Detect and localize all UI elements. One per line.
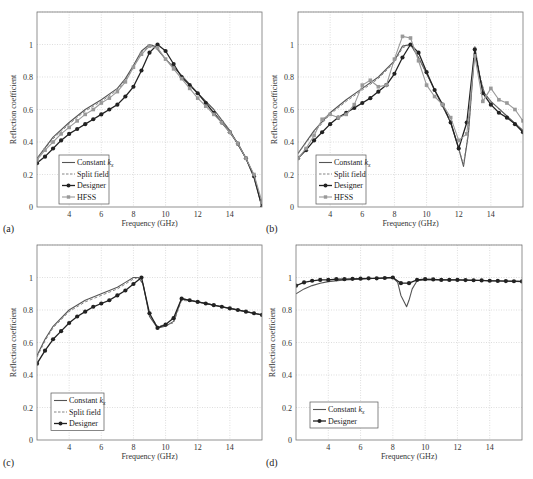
data-point-marker	[505, 116, 509, 120]
data-point-marker	[350, 277, 354, 281]
data-point-marker	[212, 113, 216, 117]
data-point-marker	[147, 311, 151, 315]
x-tick-label: 4	[326, 443, 330, 452]
data-point-marker	[204, 104, 208, 108]
x-tick-label: 12	[194, 210, 202, 219]
legend-entry-label: HFSS	[77, 193, 96, 202]
legend-entry-label: Constant kx	[334, 158, 371, 168]
data-point-marker	[123, 288, 127, 292]
data-point-marker	[352, 103, 356, 107]
data-point-marker	[431, 277, 435, 281]
series-line	[37, 278, 262, 364]
data-point-marker	[51, 337, 55, 341]
data-point-marker	[115, 293, 119, 297]
data-point-marker	[196, 91, 200, 95]
data-point-marker	[43, 155, 47, 159]
data-point-marker	[417, 59, 421, 63]
data-point-marker	[375, 276, 379, 280]
data-point-marker	[43, 349, 47, 353]
data-point-marker	[320, 130, 324, 134]
figure-canvas: 46810121400.20.40.60.81Frequency (GHz)Re…	[0, 0, 533, 479]
data-point-marker	[424, 70, 428, 74]
data-point-marker	[505, 101, 509, 105]
data-point-marker	[449, 116, 453, 120]
y-tick-label: 0.8	[284, 73, 294, 82]
data-point-marker	[180, 297, 184, 301]
data-point-marker	[139, 68, 143, 72]
x-tick-label: 14	[226, 443, 234, 452]
data-point-marker	[336, 116, 340, 120]
series-group	[294, 275, 524, 306]
data-point-marker	[67, 126, 71, 130]
data-point-marker	[228, 130, 232, 134]
data-point-marker	[407, 281, 411, 285]
y-tick-label: 0.8	[23, 73, 33, 82]
data-point-marker	[344, 113, 348, 117]
data-point-marker	[99, 301, 103, 305]
data-point-marker	[124, 80, 128, 84]
legend: Constant kxSplit fieldDesignerHFSS	[59, 155, 114, 204]
y-tick-label: 0	[29, 203, 33, 212]
y-tick-label: 0.6	[23, 339, 33, 348]
x-tick-label: 8	[392, 210, 396, 219]
legend-entry-label: Constant kx	[328, 405, 365, 415]
data-point-marker	[312, 134, 316, 138]
data-point-marker	[115, 103, 119, 107]
x-tick-label: 4	[328, 210, 332, 219]
chart-panel-a: 46810121400.20.40.60.81Frequency (GHz)Re…	[3, 12, 264, 235]
data-point-marker	[67, 132, 71, 136]
data-point-marker	[204, 301, 208, 305]
data-point-marker	[164, 57, 168, 61]
data-point-marker	[244, 156, 248, 160]
y-tick-label: 1	[29, 274, 33, 283]
y-tick-label: 0.4	[282, 371, 292, 380]
data-point-marker	[212, 303, 216, 307]
legend-entry-label: HFSS	[334, 193, 353, 202]
data-point-marker	[368, 96, 372, 100]
data-point-marker	[433, 88, 437, 92]
legend-entry-label: Designer	[334, 181, 363, 190]
y-tick-label: 0.4	[23, 138, 33, 147]
data-point-marker	[107, 298, 111, 302]
chart-panel-c: 46810121400.20.40.60.81Frequency (GHz)Re…	[3, 245, 264, 469]
y-tick-label: 0.6	[23, 106, 33, 115]
data-point-marker	[480, 278, 484, 282]
data-point-marker	[156, 46, 160, 50]
legend-entry-label: Designer	[77, 181, 106, 190]
series-line	[37, 278, 262, 356]
data-point-marker	[447, 278, 451, 282]
y-axis-label: Reflection coefficient	[9, 74, 18, 144]
data-point-marker	[360, 83, 364, 87]
data-point-marker	[236, 142, 240, 146]
data-point-marker	[399, 281, 403, 285]
data-point-marker	[334, 277, 338, 281]
data-point-marker	[504, 279, 508, 283]
data-point-marker	[342, 277, 346, 281]
data-point-marker	[147, 51, 151, 55]
data-point-marker	[401, 35, 405, 39]
data-point-marker	[123, 94, 127, 98]
data-point-marker	[83, 310, 87, 314]
data-point-marker	[75, 314, 79, 318]
data-point-marker	[302, 280, 306, 284]
y-axis-label: Reflection coefficient	[270, 74, 279, 144]
data-point-marker	[180, 77, 184, 81]
x-tick-label: 8	[391, 443, 395, 452]
data-point-marker	[392, 72, 396, 76]
data-point-marker	[188, 87, 192, 91]
x-tick-label: 12	[455, 210, 463, 219]
x-tick-label: 14	[487, 210, 495, 219]
data-point-marker	[252, 173, 256, 177]
x-tick-label: 6	[360, 210, 364, 219]
data-point-marker	[59, 132, 63, 136]
data-point-marker	[99, 112, 103, 116]
legend: Constant kxSplit fieldDesignerHFSS	[316, 155, 371, 204]
x-tick-label: 12	[453, 443, 461, 452]
x-tick-label: 6	[359, 443, 363, 452]
data-point-marker	[433, 95, 437, 99]
data-point-marker	[107, 107, 111, 111]
data-point-marker	[441, 103, 445, 107]
data-point-marker	[236, 308, 240, 312]
data-point-marker	[67, 321, 71, 325]
data-point-marker	[457, 139, 461, 143]
